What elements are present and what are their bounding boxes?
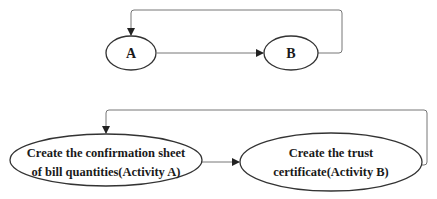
node-activity-a: Create the confirmation sheet of bill qu… xyxy=(10,134,202,186)
node-b: B xyxy=(264,36,318,70)
node-activity-a-line-1: Create the confirmation sheet xyxy=(27,146,186,160)
node-activity-b-line-1: Create the trust xyxy=(289,146,374,160)
activity-diagram: A B Create the confirmation sheet of bil… xyxy=(0,0,437,199)
top-diagram: A B xyxy=(106,10,342,70)
node-a: A xyxy=(106,36,156,70)
node-activity-b-line-2: certificate(Activity B) xyxy=(273,165,389,179)
bottom-diagram: Create the confirmation sheet of bill qu… xyxy=(10,110,427,191)
node-activity-b: Create the trust certificate(Activity B) xyxy=(240,133,422,191)
node-a-label: A xyxy=(126,46,137,61)
node-b-label: B xyxy=(286,46,295,61)
node-activity-a-line-2: of bill quantities(Activity A) xyxy=(32,165,181,179)
